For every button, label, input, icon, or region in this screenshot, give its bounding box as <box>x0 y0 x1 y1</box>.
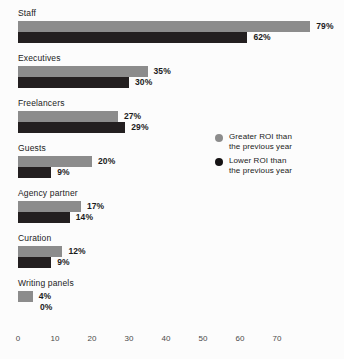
bar-row: 4% <box>18 291 344 302</box>
bar-value-label: 9% <box>57 167 70 178</box>
bar-value-label: 20% <box>98 156 115 167</box>
bar-lower-roi <box>18 77 129 88</box>
bar-lower-roi <box>18 212 70 223</box>
category-group: Staff79%62% <box>0 8 344 43</box>
bar-greater-roi <box>18 21 310 32</box>
bar-row: 12% <box>18 246 344 257</box>
category-group: Executives35%30% <box>0 53 344 88</box>
bar-row: 30% <box>18 77 344 88</box>
bar-greater-roi <box>18 291 33 302</box>
x-tick-label: 10 <box>51 334 60 343</box>
bar-value-label: 0% <box>40 302 52 313</box>
x-tick-label: 50 <box>199 334 208 343</box>
bar-value-label: 62% <box>253 32 270 43</box>
bar-value-label: 30% <box>135 77 152 88</box>
bar-value-label: 27% <box>124 111 141 122</box>
bar-row: 0% <box>18 302 344 313</box>
bar-row: 62% <box>18 32 344 43</box>
category-label: Agency partner <box>18 188 78 198</box>
bar-row: 79% <box>18 21 344 32</box>
grouped-bar-chart: Staff79%62%Executives35%30%Freelancers27… <box>0 0 344 359</box>
bar-lower-roi <box>18 257 51 268</box>
bar-value-label: 29% <box>131 122 148 133</box>
bar-row: 14% <box>18 212 344 223</box>
lower-roi-dot-icon <box>215 158 223 166</box>
bar-value-label: 12% <box>68 246 85 257</box>
x-axis: 010203040506070 <box>0 334 344 348</box>
category-label: Writing panels <box>18 278 74 288</box>
bar-row: 27% <box>18 111 344 122</box>
legend-item: Lower ROI than the previous year <box>215 156 340 178</box>
bar-row: 9% <box>18 257 344 268</box>
bar-value-label: 35% <box>154 66 171 77</box>
bar-value-label: 79% <box>316 21 333 32</box>
category-group: Agency partner17%14% <box>0 188 344 223</box>
category-group: Curation12%9% <box>0 233 344 268</box>
x-tick-label: 30 <box>125 334 134 343</box>
category-label: Staff <box>18 8 36 18</box>
category-label: Executives <box>18 53 61 63</box>
bar-value-label: 9% <box>57 257 70 268</box>
x-tick-label: 40 <box>162 334 171 343</box>
greater-roi-dot-icon <box>215 134 223 142</box>
x-tick-label: 0 <box>16 334 20 343</box>
legend-label: Lower ROI than the previous year <box>229 156 292 176</box>
bar-greater-roi <box>18 111 118 122</box>
category-label: Curation <box>18 233 51 243</box>
category-group: Freelancers27%29% <box>0 98 344 133</box>
category-label: Guests <box>18 143 46 153</box>
bar-greater-roi <box>18 246 62 257</box>
x-tick-label: 70 <box>273 334 282 343</box>
bar-lower-roi <box>18 32 247 43</box>
legend-item: Greater ROI than the previous year <box>215 132 340 154</box>
bar-value-label: 4% <box>39 291 52 302</box>
x-tick-label: 60 <box>236 334 245 343</box>
category-label: Freelancers <box>18 98 65 108</box>
bar-lower-roi <box>18 122 125 133</box>
bar-greater-roi <box>18 66 148 77</box>
legend-label: Greater ROI than the previous year <box>229 132 292 152</box>
bar-greater-roi <box>18 201 81 212</box>
bar-row: 35% <box>18 66 344 77</box>
category-group: Writing panels4%0% <box>0 278 344 313</box>
bar-row: 17% <box>18 201 344 212</box>
bar-value-label: 17% <box>87 201 104 212</box>
x-tick-label: 20 <box>88 334 97 343</box>
bar-lower-roi <box>18 167 51 178</box>
bar-greater-roi <box>18 156 92 167</box>
bar-value-label: 14% <box>76 212 93 223</box>
